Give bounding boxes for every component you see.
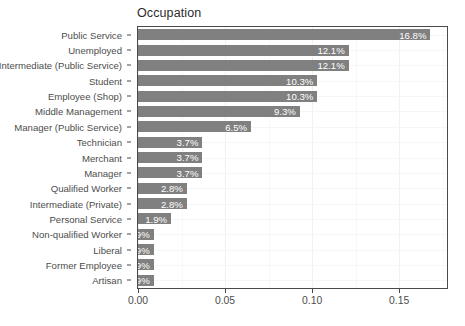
y-tick-label: Non-qualified Worker xyxy=(32,229,122,240)
y-tick-mark xyxy=(127,264,131,265)
y-tick-label: Manager xyxy=(84,167,122,178)
x-tick-label: 0.15 xyxy=(389,295,409,306)
y-tick-mark xyxy=(127,50,131,51)
bar-row[interactable]: 2.8% xyxy=(138,183,447,194)
y-tick-mark xyxy=(127,218,131,219)
bar-row[interactable]: 12.1% xyxy=(138,45,447,56)
bar-row[interactable]: 0.9% xyxy=(138,259,447,270)
bar-row[interactable]: 10.3% xyxy=(138,91,447,102)
y-tick-label: Intermediate (Private) xyxy=(30,198,122,209)
bar[interactable] xyxy=(138,198,187,209)
y-tick-label: Manager (Public Service) xyxy=(14,121,122,132)
bar[interactable] xyxy=(138,167,202,178)
bar[interactable] xyxy=(138,121,251,132)
y-tick-mark xyxy=(127,188,131,189)
y-tick-mark xyxy=(127,34,131,35)
bar[interactable] xyxy=(138,259,154,270)
y-tick-label: Personal Service xyxy=(49,213,122,224)
x-tick-mark xyxy=(399,289,400,293)
x-tick-mark xyxy=(312,289,313,293)
y-tick-mark xyxy=(127,80,131,81)
x-tick-label: 0.00 xyxy=(128,295,148,306)
y-tick-mark xyxy=(127,126,131,127)
y-tick-label: Public Service xyxy=(61,29,122,40)
x-tick-mark xyxy=(138,289,139,293)
bar[interactable] xyxy=(138,45,349,56)
y-tick-mark xyxy=(127,172,131,173)
bar[interactable] xyxy=(138,229,154,240)
y-tick-label: Student xyxy=(89,75,122,86)
y-tick-mark xyxy=(127,249,131,250)
x-axis: 0.000.050.100.15 xyxy=(137,289,448,319)
plot-panel: 16.8%12.1%12.1%10.3%10.3%9.3%6.5%3.7%3.7… xyxy=(137,26,448,289)
x-tick-label: 0.05 xyxy=(215,295,235,306)
y-tick-mark xyxy=(127,65,131,66)
y-tick-mark xyxy=(127,203,131,204)
y-tick-label: Artisan xyxy=(92,275,122,286)
bar-chart-figure: Occupation Public ServiceUnemployedInter… xyxy=(0,0,465,326)
y-tick-mark xyxy=(127,96,131,97)
bar-row[interactable]: 1.9% xyxy=(138,213,447,224)
y-tick-label: Intermediate (Public Service) xyxy=(0,60,122,71)
y-tick-label: Unemployed xyxy=(68,45,122,56)
bar[interactable] xyxy=(138,152,202,163)
bar-row[interactable]: 6.5% xyxy=(138,121,447,132)
y-tick-mark xyxy=(127,142,131,143)
y-tick-label: Merchant xyxy=(82,152,122,163)
y-tick-label: Technician xyxy=(77,137,122,148)
bar-row[interactable]: 3.7% xyxy=(138,152,447,163)
bar-row[interactable]: 3.7% xyxy=(138,137,447,148)
y-tick-label: Liberal xyxy=(93,244,122,255)
y-tick-mark xyxy=(127,280,131,281)
y-axis: Public ServiceUnemployedIntermediate (Pu… xyxy=(0,26,131,289)
bar-row[interactable]: 9.3% xyxy=(138,106,447,117)
bar[interactable] xyxy=(138,183,187,194)
bar-row[interactable]: 0.9% xyxy=(138,229,447,240)
bar[interactable] xyxy=(138,137,202,148)
y-tick-label: Middle Management xyxy=(35,106,122,117)
bar[interactable] xyxy=(138,213,171,224)
y-tick-label: Employee (Shop) xyxy=(48,91,122,102)
x-tick-mark xyxy=(225,289,226,293)
bar[interactable] xyxy=(138,75,317,86)
bar[interactable] xyxy=(138,91,317,102)
bar-row[interactable]: 16.8% xyxy=(138,29,447,40)
y-tick-label: Former Employee xyxy=(46,259,122,270)
bar[interactable] xyxy=(138,29,430,40)
x-tick-label: 0.10 xyxy=(302,295,322,306)
bar[interactable] xyxy=(138,275,154,286)
y-tick-mark xyxy=(127,234,131,235)
bar[interactable] xyxy=(138,106,300,117)
bar[interactable] xyxy=(138,244,154,255)
bar-row[interactable]: 10.3% xyxy=(138,75,447,86)
chart-title: Occupation xyxy=(137,6,201,20)
bar[interactable] xyxy=(138,60,349,71)
bar-row[interactable]: 0.9% xyxy=(138,275,447,286)
bar-row[interactable]: 12.1% xyxy=(138,60,447,71)
bar-row[interactable]: 0.9% xyxy=(138,244,447,255)
y-tick-mark xyxy=(127,111,131,112)
bar-row[interactable]: 2.8% xyxy=(138,198,447,209)
bar-row[interactable]: 3.7% xyxy=(138,167,447,178)
y-tick-label: Qualified Worker xyxy=(51,183,122,194)
y-tick-mark xyxy=(127,157,131,158)
